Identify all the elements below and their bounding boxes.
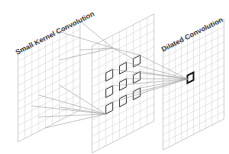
intermediate-plane bbox=[92, 14, 154, 153]
intermediate-plane-outline bbox=[92, 14, 154, 153]
convolution-diagram: Small Kernel Convolution Dilated Convolu… bbox=[0, 0, 229, 154]
figure-canvas: Small Kernel Convolution Dilated Convolu… bbox=[0, 0, 229, 154]
